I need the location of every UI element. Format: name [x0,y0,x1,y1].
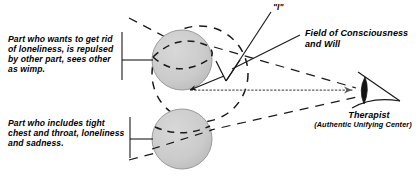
gaze-arrow-head-right [344,87,352,94]
i-label: "I" [273,3,284,13]
upper-part-circle [152,30,212,90]
therapist-sublabel: (Authentic Unifying Center) [306,121,420,130]
upper-part-leader [122,32,153,80]
therapist-lower-curve [352,100,400,108]
diagram-canvas: Part who wants to get rid of loneliness,… [0,0,420,194]
lower-part-leader [130,117,153,158]
field-of-consciousness-label: Field of Consciousness and Will [305,28,417,49]
lower-part-description: Part who includes tight chest and throat… [8,118,128,148]
upper-part-description: Part who wants to get rid of loneliness,… [8,34,120,75]
therapist-eye [352,72,400,108]
field-leader-line [232,35,300,69]
i-leader-line [226,12,271,81]
therapist-pupil [361,77,367,104]
